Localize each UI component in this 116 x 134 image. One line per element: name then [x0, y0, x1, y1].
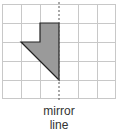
reflection-diagram: mirror line: [0, 0, 116, 134]
grid-svg: [0, 0, 116, 104]
mirror-label-line2: line: [0, 118, 116, 132]
mirror-label-line1: mirror: [0, 104, 116, 118]
